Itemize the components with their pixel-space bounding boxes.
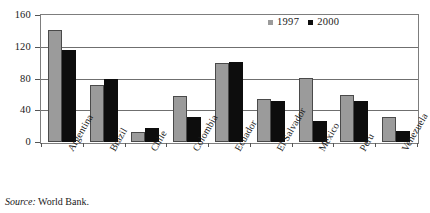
- x-axis-labels: ArgentinaBrazilChileColombiaEcuadorEl Sa…: [41, 148, 417, 206]
- gray-square-icon: [268, 20, 273, 25]
- legend-label-1997: 1997: [277, 17, 299, 28]
- source-value: World Bank.: [36, 196, 89, 207]
- legend-entry-1997: 1997: [268, 17, 299, 28]
- legend-label-2000: 2000: [317, 17, 339, 28]
- bar-group: [90, 15, 118, 142]
- y-tick-label: 0: [26, 137, 31, 148]
- bar-1997: [382, 117, 396, 142]
- bar-1997: [215, 63, 229, 142]
- bar-group: [48, 15, 76, 142]
- bar-1997: [90, 85, 104, 142]
- x-tick-mark: [166, 143, 167, 147]
- x-tick-mark: [208, 143, 209, 147]
- bars-layer: [41, 15, 417, 142]
- bar-group: [173, 15, 201, 142]
- x-tick-mark: [292, 143, 293, 147]
- x-tick-mark: [125, 143, 126, 147]
- bar-2000: [62, 50, 76, 142]
- y-tick-label: 120: [15, 42, 31, 53]
- bar-1997: [131, 132, 145, 142]
- y-axis: 04080120160: [0, 0, 40, 160]
- bar-group: [340, 15, 368, 142]
- bar-1997: [48, 30, 62, 142]
- black-square-icon: [308, 20, 313, 25]
- y-tick-label: 80: [20, 73, 31, 84]
- bar-group: [131, 15, 159, 142]
- source-label: Source:: [5, 196, 36, 207]
- x-tick-mark: [333, 143, 334, 147]
- bar-group: [257, 15, 285, 142]
- source-note: Source: World Bank.: [5, 196, 89, 207]
- y-tick-label: 160: [15, 10, 31, 21]
- x-tick-mark: [250, 143, 251, 147]
- bar-group: [215, 15, 243, 142]
- bar-1997: [257, 99, 271, 142]
- legend-entry-2000: 2000: [308, 17, 339, 28]
- x-tick-mark: [375, 143, 376, 147]
- chart-legend: 1997 2000: [268, 17, 339, 28]
- bar-1997: [340, 95, 354, 142]
- y-tick-label: 40: [20, 105, 31, 116]
- bar-group: [382, 15, 410, 142]
- x-tick-mark: [41, 143, 42, 147]
- bar-1997: [173, 96, 187, 142]
- bar-group: [299, 15, 327, 142]
- x-tick-mark: [83, 143, 84, 147]
- x-tick-mark: [417, 143, 418, 147]
